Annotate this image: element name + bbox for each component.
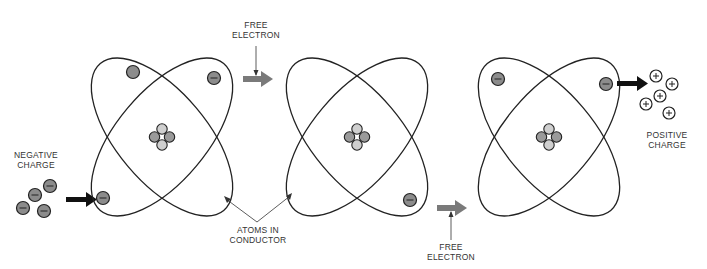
positive-charge-label-line2: CHARGE bbox=[639, 140, 695, 150]
free-electron-label-top: FREE ELECTRON bbox=[228, 20, 284, 40]
positive-charge-group bbox=[640, 70, 678, 119]
positive-charge-particle bbox=[650, 70, 662, 82]
negative-charge-particle bbox=[38, 205, 51, 218]
charge-flow-arrow-out bbox=[617, 76, 648, 91]
positive-charge-particle bbox=[654, 90, 666, 102]
electron bbox=[404, 194, 417, 207]
negative-charge-group bbox=[17, 180, 57, 218]
free-electron-label-bottom-line2: ELECTRON bbox=[423, 252, 479, 262]
atoms-in-conductor-pointers bbox=[224, 193, 292, 222]
negative-charge-particle bbox=[44, 180, 57, 193]
atoms-in-conductor-label-line2: CONDUCTOR bbox=[228, 235, 288, 245]
nucleus bbox=[344, 124, 369, 150]
orbit-ellipse bbox=[66, 35, 258, 240]
nucleus bbox=[536, 124, 561, 150]
positive-charge-label: POSITIVE CHARGE bbox=[639, 130, 695, 150]
orbit-ellipse bbox=[261, 35, 453, 240]
nucleus bbox=[149, 124, 174, 150]
atoms-in-conductor-label: ATOMS IN CONDUCTOR bbox=[228, 225, 288, 245]
positive-charge-label-line1: POSITIVE bbox=[639, 130, 695, 140]
free-electron-label-top-line2: ELECTRON bbox=[228, 30, 284, 40]
negative-charge-label-line2: CHARGE bbox=[8, 160, 64, 170]
electron-flow-diagram bbox=[0, 0, 707, 269]
negative-charge-label: NEGATIVE CHARGE bbox=[8, 150, 64, 170]
electron bbox=[127, 66, 140, 79]
negative-charge-particle bbox=[17, 202, 30, 215]
atoms-in-conductor-label-line1: ATOMS IN bbox=[228, 225, 288, 235]
atom-2 bbox=[261, 35, 453, 240]
positive-charge-particle bbox=[666, 78, 678, 90]
electron bbox=[492, 73, 505, 86]
positive-charge-particle bbox=[663, 107, 675, 119]
electron bbox=[208, 72, 221, 85]
free-electron-arrow-top bbox=[243, 46, 273, 87]
free-electron-label-bottom-line1: FREE bbox=[423, 242, 479, 252]
orbit-ellipse bbox=[453, 35, 645, 240]
atom-3 bbox=[453, 35, 645, 240]
free-electron-label-top-line1: FREE bbox=[228, 20, 284, 30]
electron bbox=[600, 78, 613, 91]
free-electron-arrow-bottom bbox=[437, 200, 467, 240]
atom-1 bbox=[66, 35, 258, 240]
free-electron-label-bottom: FREE ELECTRON bbox=[423, 242, 479, 262]
orbit-ellipse bbox=[66, 35, 258, 240]
positive-charge-particle bbox=[640, 98, 652, 110]
electron bbox=[97, 192, 110, 205]
negative-charge-label-line1: NEGATIVE bbox=[8, 150, 64, 160]
orbit-ellipse bbox=[453, 35, 645, 240]
orbit-ellipse bbox=[261, 35, 453, 240]
negative-charge-particle bbox=[29, 189, 42, 202]
